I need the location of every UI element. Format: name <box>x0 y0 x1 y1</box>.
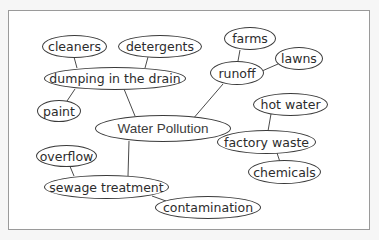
link-dumping-detergents <box>145 57 148 68</box>
node-dumping-in-the-drain: dumping in the drain <box>44 67 186 90</box>
node-overflow: overflow <box>36 145 97 167</box>
node-paint: paint <box>37 100 81 122</box>
node-farms: farms <box>224 27 276 50</box>
node-label: lawns <box>281 51 317 66</box>
node-runoff: runoff <box>210 61 264 85</box>
node-label: chemicals <box>253 165 316 180</box>
node-label: sewage treatment <box>49 180 163 195</box>
node-label: overflow <box>40 149 94 164</box>
center-label: Water Pollution <box>117 121 208 136</box>
link-dumping-paint <box>67 89 75 101</box>
link-dumping-cleaners <box>74 57 77 68</box>
node-label: runoff <box>218 66 255 81</box>
node-detergents: detergents <box>118 35 202 58</box>
node-label: factory waste <box>224 135 309 150</box>
node-chemicals: chemicals <box>248 160 321 184</box>
node-sewage-treatment: sewage treatment <box>44 175 169 199</box>
node-cleaners: cleaners <box>42 35 107 58</box>
node-label: contamination <box>163 200 253 215</box>
node-label: paint <box>43 104 75 119</box>
node-hot-water: hot water <box>253 93 328 116</box>
link-center-sewage <box>128 141 129 176</box>
link-runoff-farms <box>238 50 240 61</box>
node-label: detergents <box>126 39 194 54</box>
node-label: hot water <box>260 97 320 112</box>
node-label: dumping in the drain <box>49 71 180 86</box>
link-dumping-center <box>124 89 135 116</box>
node-contamination: contamination <box>155 196 261 219</box>
node-lawns: lawns <box>275 47 323 70</box>
link-factory-hotwater <box>268 114 271 131</box>
node-label: farms <box>232 31 268 46</box>
node-water-pollution: Water Pollution <box>95 115 231 142</box>
link-runoff-center <box>192 84 223 120</box>
link-runoff-lawns <box>262 64 278 71</box>
node-factory-waste: factory waste <box>217 130 316 154</box>
node-label: cleaners <box>48 39 101 54</box>
